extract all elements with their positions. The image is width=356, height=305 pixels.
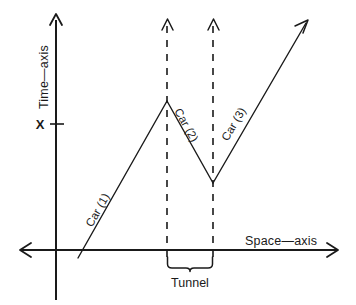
- car-3-trajectory: [213, 20, 308, 183]
- car-3-label: Car (3): [219, 105, 248, 143]
- time-axis: [50, 14, 62, 300]
- diagram-canvas: Time—axis Space—axis X Tunnel Car (1) Ca…: [0, 0, 356, 305]
- tunnel-entry-boundary: [162, 19, 173, 258]
- tunnel-brace: [168, 257, 213, 272]
- car-3-line: [213, 23, 306, 183]
- time-axis-label: Time—axis: [37, 45, 51, 109]
- tunnel-exit-boundary: [208, 19, 219, 258]
- time-axis-tick-label: X: [36, 117, 45, 132]
- space-axis-label: Space—axis: [245, 234, 317, 248]
- tunnel-label: Tunnel: [171, 276, 209, 290]
- car-1-trajectory: [78, 101, 167, 258]
- tunnel-brace-path: [168, 257, 213, 272]
- car-1-line: [78, 101, 167, 258]
- time-space-diagram: Time—axis Space—axis X Tunnel Car (1) Ca…: [0, 0, 356, 305]
- car-2-label: Car (2): [172, 106, 200, 144]
